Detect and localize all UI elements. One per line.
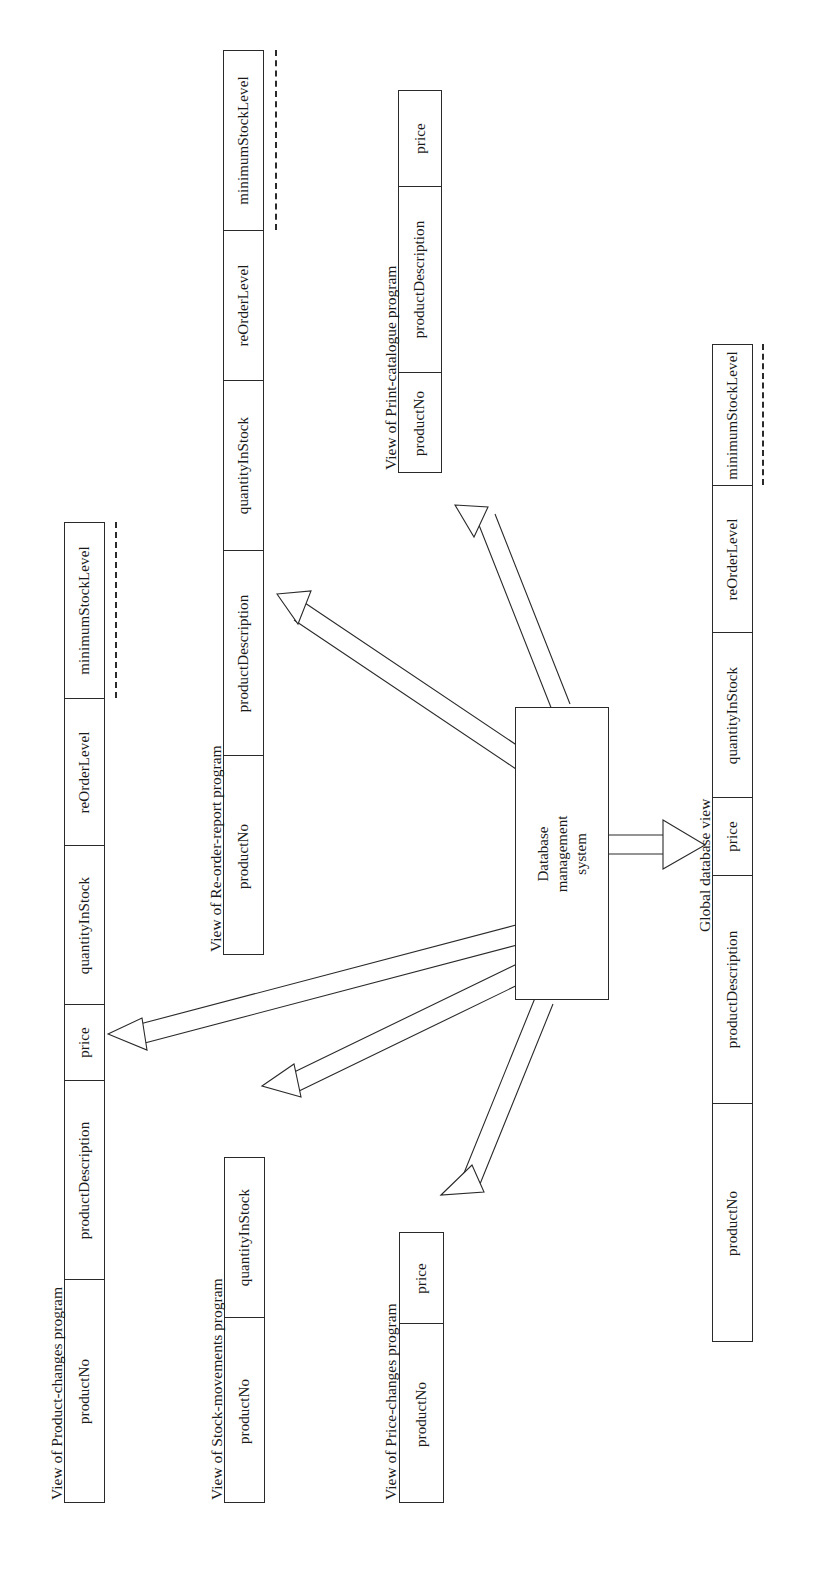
field-cell: minimumStockLevel (224, 51, 263, 231)
schema-continuation-global-view (762, 344, 764, 485)
field-cell: quantityInStock (224, 381, 263, 551)
caption-price-changes: View of Price-changes program (383, 1303, 399, 1500)
field-cell: productNo (713, 1104, 752, 1343)
field-label: price (412, 123, 427, 153)
field-label: reOrderLevel (77, 731, 92, 813)
caption-stock-movements: View of Stock-movements program (209, 1278, 225, 1500)
dbms-box: Database management system (515, 707, 609, 1000)
schema-box-price-changes: price productNo (399, 1232, 444, 1503)
arrow-to-product-changes (108, 925, 521, 1050)
caption-print-catalogue: View of Print-catalogue program (383, 266, 399, 470)
schema-box-stock-movements: quantityInStock productNo (224, 1157, 265, 1503)
arrow-to-global-view (609, 820, 705, 869)
field-cell: quantityInStock (65, 846, 104, 1005)
caption-global-view: Global database view (697, 799, 713, 932)
caption-re-order-report: View of Re-order-report program (208, 745, 224, 952)
dbms-label-line3: system (571, 815, 590, 892)
schema-box-global-view: minimumStockLevel reOrderLevel quantityI… (712, 344, 753, 1342)
field-cell: quantityInStock (713, 633, 752, 798)
diagram-canvas: minimumStockLevel reOrderLevel quantityI… (0, 0, 818, 1577)
field-label: quantityInStock (237, 1189, 252, 1286)
field-cell: productDescription (713, 876, 752, 1104)
field-label: quantityInStock (236, 417, 251, 514)
field-label: minimumStockLevel (725, 351, 740, 479)
field-cell: productDescription (65, 1081, 104, 1280)
field-label: price (414, 1263, 429, 1293)
field-cell: reOrderLevel (713, 486, 752, 633)
caption-product-changes: View of Product-changes program (49, 1287, 65, 1500)
field-cell: price (65, 1005, 104, 1081)
field-label: productDescription (413, 221, 428, 339)
field-label: productNo (237, 1378, 252, 1443)
field-label: quantityInStock (725, 666, 740, 763)
field-label: productNo (414, 1381, 429, 1446)
field-cell: productNo (224, 756, 263, 956)
dbms-label-line2: management (553, 815, 572, 892)
field-label: productDescription (725, 931, 740, 1049)
arrow-to-print-catalogue (455, 505, 570, 710)
schema-continuation-product-changes (115, 522, 117, 698)
field-cell: quantityInStock (225, 1158, 264, 1318)
dbms-label: Database management system (534, 815, 590, 892)
field-label: productNo (413, 391, 428, 456)
field-label: productDescription (236, 594, 251, 712)
field-label: reOrderLevel (725, 518, 740, 600)
schema-box-re-order-report: minimumStockLevel reOrderLevel quantityI… (223, 50, 264, 955)
field-cell: reOrderLevel (224, 231, 263, 381)
arrow-to-price-changes (441, 998, 553, 1195)
field-cell: productNo (65, 1280, 104, 1502)
schema-continuation-re-order-report (275, 50, 277, 230)
field-label: price (725, 821, 740, 851)
field-cell: minimumStockLevel (713, 345, 752, 486)
field-label: minimumStockLevel (236, 76, 251, 204)
field-label: price (77, 1027, 92, 1057)
field-label: productDescription (77, 1121, 92, 1239)
field-label: minimumStockLevel (77, 546, 92, 674)
schema-box-product-changes: minimumStockLevel reOrderLevel quantityI… (64, 522, 105, 1503)
arrow-to-stock-movements (262, 964, 526, 1097)
field-cell: minimumStockLevel (65, 523, 104, 699)
field-label: productNo (77, 1358, 92, 1423)
schema-box-print-catalogue: price productDescription productNo (398, 90, 442, 473)
dbms-label-line1: Database (534, 815, 553, 892)
field-cell: productDescription (399, 187, 441, 373)
field-cell: productNo (399, 373, 441, 474)
arrow-to-re-order-report (277, 591, 527, 769)
field-cell: price (400, 1233, 443, 1324)
field-cell: price (399, 91, 441, 187)
field-label: reOrderLevel (236, 265, 251, 347)
field-cell: productNo (400, 1324, 443, 1504)
field-label: productNo (725, 1191, 740, 1256)
field-cell: reOrderLevel (65, 699, 104, 846)
field-label: quantityInStock (77, 876, 92, 973)
field-cell: price (713, 798, 752, 876)
field-label: productNo (236, 823, 251, 888)
field-cell: productDescription (224, 551, 263, 756)
field-cell: productNo (225, 1318, 264, 1504)
